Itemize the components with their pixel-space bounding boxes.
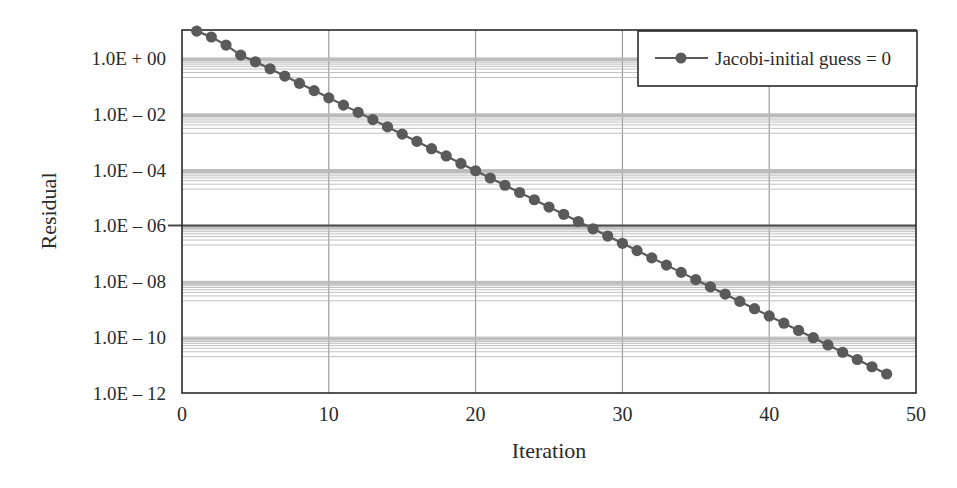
x-tick-label: 30	[612, 403, 632, 425]
data-point-marker	[852, 354, 863, 365]
data-point-marker	[220, 39, 231, 50]
x-axis-title: Iteration	[512, 438, 587, 463]
y-tick-label: 1.0E – 10	[93, 327, 166, 348]
data-point-marker	[778, 318, 789, 329]
y-tick-label: 1.0E – 04	[93, 160, 167, 181]
data-point-marker	[793, 325, 804, 336]
chart-canvas: 1.0E + 001.0E – 021.0E – 041.0E – 061.0E…	[0, 0, 957, 488]
y-tick-label: 1.0E + 00	[91, 48, 166, 69]
data-point-marker	[705, 281, 716, 292]
legend-marker-icon	[676, 53, 687, 64]
data-point-marker	[808, 332, 819, 343]
data-point-marker	[382, 121, 393, 132]
x-tick-label: 0	[177, 403, 187, 425]
data-point-marker	[617, 238, 628, 249]
data-point-marker	[646, 252, 657, 263]
data-point-marker	[455, 158, 466, 169]
y-tick-label: 1.0E – 02	[93, 104, 166, 125]
data-point-marker	[309, 85, 320, 96]
data-point-marker	[529, 194, 540, 205]
data-point-marker	[573, 216, 584, 227]
y-axis-tick-labels: 1.0E + 001.0E – 021.0E – 041.0E – 061.0E…	[91, 48, 166, 404]
x-tick-label: 50	[906, 403, 926, 425]
data-point-marker	[676, 267, 687, 278]
data-point-marker	[367, 114, 378, 125]
data-point-marker	[411, 136, 422, 147]
residual-chart: 1.0E + 001.0E – 021.0E – 041.0E – 061.0E…	[0, 0, 957, 488]
data-point-marker	[279, 70, 290, 81]
data-point-marker	[631, 245, 642, 256]
data-point-marker	[720, 289, 731, 300]
data-point-marker	[866, 361, 877, 372]
legend-label: Jacobi-initial guess = 0	[715, 48, 891, 69]
data-point-marker	[191, 26, 202, 37]
legend: Jacobi-initial guess = 0	[638, 31, 917, 86]
data-point-marker	[558, 209, 569, 220]
x-axis-tick-labels: 01020304050	[177, 403, 926, 425]
y-tick-label: 1.0E – 08	[93, 271, 166, 292]
y-tick-label: 1.0E – 12	[93, 383, 166, 404]
data-point-marker	[602, 230, 613, 241]
x-tick-label: 40	[759, 403, 779, 425]
data-point-marker	[749, 303, 760, 314]
data-point-marker	[353, 107, 364, 118]
data-point-marker	[587, 223, 598, 234]
data-point-marker	[661, 260, 672, 271]
data-point-marker	[734, 296, 745, 307]
data-point-marker	[837, 347, 848, 358]
data-point-marker	[338, 100, 349, 111]
data-point-marker	[514, 187, 525, 198]
data-point-marker	[543, 201, 554, 212]
data-point-marker	[206, 31, 217, 42]
data-point-marker	[499, 180, 510, 191]
y-tick-label: 1.0E – 06	[93, 215, 166, 236]
data-point-marker	[250, 56, 261, 67]
data-point-marker	[323, 92, 334, 103]
data-point-marker	[441, 150, 452, 161]
data-point-marker	[764, 310, 775, 321]
data-point-marker	[426, 143, 437, 154]
data-point-marker	[470, 165, 481, 176]
data-point-marker	[881, 368, 892, 379]
x-tick-label: 20	[466, 403, 486, 425]
data-point-marker	[485, 172, 496, 183]
data-point-marker	[264, 63, 275, 74]
data-point-marker	[822, 339, 833, 350]
data-point-marker	[235, 50, 246, 61]
data-point-marker	[294, 78, 305, 89]
data-point-marker	[690, 274, 701, 285]
x-tick-label: 10	[319, 403, 339, 425]
data-point-marker	[397, 129, 408, 140]
y-axis-title: Residual	[36, 173, 61, 250]
